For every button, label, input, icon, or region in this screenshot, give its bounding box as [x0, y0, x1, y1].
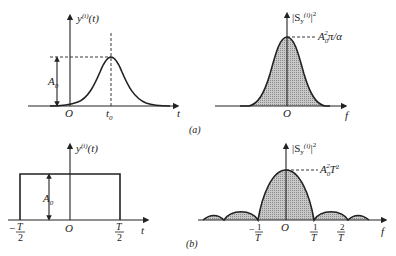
y-axis-label: y(i)(t): [76, 12, 99, 25]
spectrum-origin-label: O: [283, 107, 291, 119]
t-axis-label: t: [141, 224, 145, 236]
tick-1-over-T: 1 T: [310, 222, 318, 243]
panel-a-spectrum-plot: |Sy(i)|2 A02π/α O f: [215, 10, 350, 121]
amplitude-label: A0: [42, 192, 54, 207]
panel-b-time-plot: y(i)(t) A0 − T 2 O T 2 t: [8, 142, 146, 243]
svg-text:T: T: [311, 232, 318, 243]
peak-value-label: A02T2: [319, 162, 340, 178]
caption-a: (a): [189, 124, 201, 136]
f-axis-label: f: [345, 109, 350, 121]
tick-minus-T-over-2: − T 2: [9, 221, 25, 243]
f-axis-label: f: [381, 225, 386, 237]
svg-text:−: −: [9, 222, 15, 234]
peak-value-label: A02π/α: [317, 29, 342, 45]
panel-a-time-plot: y(i)(t) A0 O t0 t: [28, 12, 181, 122]
caption-b: (b): [186, 238, 198, 250]
svg-text:2: 2: [18, 232, 23, 243]
svg-text:T: T: [116, 221, 123, 232]
origin-label: O: [65, 222, 73, 234]
y-axis-label: y(i)(t): [75, 142, 98, 155]
svg-text:1: 1: [313, 222, 318, 232]
spectrum-y-label: |Sy(i)|2: [292, 10, 317, 25]
svg-text:1: 1: [257, 222, 262, 232]
gaussian-pulse-curve: [50, 57, 170, 106]
svg-text:T: T: [338, 232, 345, 243]
svg-text:T: T: [255, 232, 262, 243]
spectrum-y-label: |Sy(i)|2: [292, 141, 317, 156]
tick-2-over-T: 2 T: [337, 222, 345, 243]
origin-label: O: [65, 107, 73, 119]
t0-label: t0: [106, 107, 113, 122]
panel-b-spectrum-plot: |Sy(i)|2 A02T2 − 1 T O 1 T 2 T f: [198, 141, 386, 243]
figure-canvas: y(i)(t) A0 O t0 t |Sy(i)|2 A02π/α O f (a…: [0, 0, 396, 256]
svg-text:2: 2: [117, 232, 122, 243]
svg-text:2: 2: [340, 222, 345, 232]
tick-T-over-2: T 2: [115, 221, 124, 243]
tick-minus-1-over-T: − 1 T: [249, 222, 263, 243]
spectrum-origin-label: O: [281, 221, 289, 233]
t-axis-label: t: [177, 107, 181, 119]
svg-text:T: T: [17, 221, 24, 232]
